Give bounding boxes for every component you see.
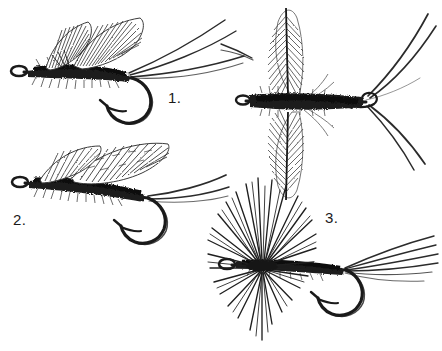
tail-fibers: [129, 20, 244, 78]
figure-fly-spent-spinner: [221, 8, 436, 200]
tail-fibers: [148, 175, 229, 202]
dubbed-body: [250, 93, 364, 109]
figure-fly-hackled-dry: [208, 178, 438, 340]
illustration-plate: 1. 2. 3.: [0, 0, 442, 351]
thorax: [246, 260, 278, 272]
tail-fan: [345, 236, 438, 281]
upright-wings: [46, 18, 143, 70]
fly-plate-artwork: [0, 0, 442, 351]
figure-fly-upright-wing-dun: [11, 18, 244, 124]
swept-wings: [40, 143, 169, 184]
figure-label-1: 1.: [168, 90, 181, 105]
figure-label-2: 2.: [13, 212, 26, 227]
figure-label-3: 3.: [325, 210, 338, 225]
splayed-tails: [366, 14, 436, 170]
figure-fly-swept-wing: [12, 143, 229, 244]
